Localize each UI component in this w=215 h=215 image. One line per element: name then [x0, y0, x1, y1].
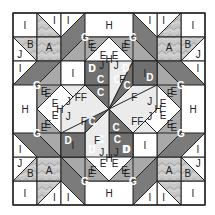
patch-label-j: J [99, 147, 104, 158]
patch-label-i: I [196, 63, 199, 74]
patch-label-d: D [65, 135, 72, 146]
patch-label-i: I [67, 192, 70, 203]
patch-label-f: F [75, 92, 81, 103]
patch-label-j: J [147, 96, 152, 107]
patch-label-j: J [17, 49, 22, 60]
patch-label-h: H [21, 104, 28, 115]
patch-label-i: I [53, 15, 56, 26]
patch-label-b: B [27, 39, 34, 50]
patch-label-i: I [53, 192, 56, 203]
patch-label-i: I [19, 144, 22, 155]
patch-label-j: J [99, 60, 104, 71]
patch-label-d: D [146, 72, 153, 83]
patch-label-i: I [148, 192, 151, 203]
patch-label-e: E [124, 168, 131, 179]
patch-label-d: D [122, 63, 129, 74]
patch-label-c: C [97, 87, 104, 98]
patch-label-i: I [72, 140, 75, 151]
patch-label-i: I [192, 188, 195, 199]
patch-label-i: I [162, 192, 165, 203]
patch-label-h: H [105, 54, 112, 65]
patch-label-i: I [24, 20, 27, 31]
patch-label-c: C [113, 122, 120, 133]
patch-label-h: H [189, 104, 196, 115]
patch-label-f: F [137, 116, 143, 127]
patch-label-a: A [46, 165, 53, 176]
patch-label-a: A [46, 42, 53, 53]
patch-label-h: H [105, 153, 112, 164]
patch-label-j: J [66, 96, 71, 107]
patch-label-i: I [19, 63, 22, 74]
patch-label-j: J [114, 60, 119, 71]
patch-label-a: A [166, 42, 173, 53]
patch-label-e: E [170, 122, 177, 133]
patch-label-h: H [105, 188, 112, 199]
patch-label-e: E [170, 86, 177, 97]
patch-label-c: C [89, 116, 96, 127]
patch-label-b: B [184, 39, 191, 50]
patch-label-i: I [72, 68, 75, 79]
patch-label-e: E [88, 168, 95, 179]
patch-label-i: I [196, 144, 199, 155]
patch-label-f: F [131, 92, 137, 103]
patch-label-a: A [166, 165, 173, 176]
patch-label-e: E [41, 86, 48, 97]
block-patches [13, 13, 205, 205]
patch-label-g: G [177, 80, 185, 91]
patch-label-j: J [196, 49, 201, 60]
patch-label-h: H [155, 104, 162, 115]
patch-label-j: J [114, 147, 119, 158]
patch-label-g: G [177, 128, 185, 139]
patch-label-f: F [81, 92, 87, 103]
patch-label-i: I [148, 15, 151, 26]
patch-label-c: C [97, 74, 104, 85]
patch-label-i: I [67, 15, 70, 26]
patch-label-f: F [94, 135, 100, 146]
patch-label-j: J [66, 111, 71, 122]
patch-label-b: B [184, 168, 191, 179]
patch-label-e: E [88, 39, 95, 50]
patch-label-h: H [105, 20, 112, 31]
patch-label-b: B [27, 168, 34, 179]
patch-label-i: I [144, 140, 147, 151]
patch-label-d: D [89, 144, 96, 155]
quilt-block-diagram: IIJBAIGEEIGEEIDJCFJIIJBAIGEEIGEEIDJCFJII… [0, 0, 215, 215]
patch-label-e: E [112, 50, 119, 61]
patch-label-h: H [56, 104, 63, 115]
patch-label-i: I [24, 188, 27, 199]
patch-label-e: E [41, 122, 48, 133]
patch-label-d: D [123, 144, 130, 155]
patch-label-e: E [112, 158, 119, 169]
patch-label-j: J [196, 158, 201, 169]
patch-label-d: D [89, 63, 96, 74]
patch-label-e: E [124, 39, 131, 50]
patch-label-c: C [114, 134, 121, 145]
patch-label-j: J [17, 158, 22, 169]
patch-label-j: J [147, 111, 152, 122]
patch-label-f: F [81, 116, 87, 127]
patch-label-i: I [192, 20, 195, 31]
patch-label-i: I [162, 15, 165, 26]
patch-label-c: C [123, 80, 130, 91]
